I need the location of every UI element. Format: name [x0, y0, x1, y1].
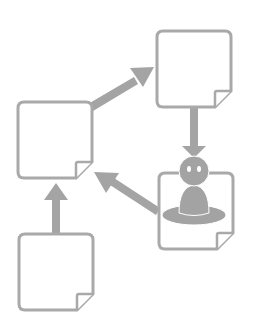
workflow-diagram [0, 0, 254, 328]
arrow-topright-to-person [182, 106, 206, 158]
document-top-right [157, 31, 231, 107]
document-bottom-left [19, 234, 93, 310]
arrow-bottom-to-left [44, 183, 68, 234]
arrow-person-to-left [94, 172, 160, 215]
document-left [18, 102, 92, 178]
arrow-left-to-topright [88, 67, 154, 111]
